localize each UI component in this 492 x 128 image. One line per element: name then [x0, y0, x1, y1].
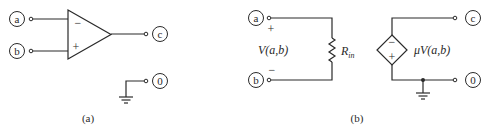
resistor-label: Rin [340, 44, 355, 60]
terminal-0: 0 [153, 74, 168, 89]
input-plus-sign: + [268, 22, 275, 36]
terminal-b: b [249, 73, 264, 88]
terminal-a: a [10, 12, 25, 27]
svg-text:b: b [14, 45, 20, 57]
node-b [29, 49, 33, 53]
node-c [453, 16, 457, 20]
input-minus-sign: − [269, 63, 276, 77]
source-plus-sign: + [389, 50, 396, 64]
wire-c [392, 18, 453, 35]
input-voltage-label: V(a,b) [258, 43, 288, 57]
node-a [29, 17, 33, 21]
terminal-b: b [10, 44, 25, 59]
terminal-c: c [466, 11, 481, 26]
svg-text:a: a [254, 12, 259, 24]
terminal-c: c [153, 27, 168, 42]
opamp-plus-sign: + [73, 40, 80, 54]
svg-text:c: c [471, 12, 476, 24]
ground-icon [119, 97, 133, 103]
node-0 [453, 78, 457, 82]
node-c [144, 32, 148, 36]
wire-b [271, 62, 332, 80]
svg-text:0: 0 [470, 74, 476, 86]
node-0 [144, 79, 148, 83]
wire-ground [126, 81, 144, 97]
node-a [267, 16, 271, 20]
wire-a [271, 18, 332, 38]
circuit-diagram: a b − + c 0 ( [0, 0, 492, 128]
terminal-a: a [249, 11, 264, 26]
source-minus-sign: − [389, 35, 396, 49]
svg-text:0: 0 [157, 75, 163, 87]
svg-text:c: c [158, 28, 163, 40]
node-b [267, 78, 271, 82]
caption-a: (a) [82, 112, 95, 125]
wire-0 [392, 65, 453, 80]
svg-text:a: a [15, 13, 20, 25]
svg-text:b: b [253, 74, 259, 86]
panel-a: a b − + c 0 ( [10, 10, 168, 125]
source-label: μV(a,b) [413, 43, 450, 57]
terminal-0: 0 [466, 73, 481, 88]
ground-icon [416, 93, 430, 99]
panel-b: a Rin b + − V(a,b) − + μV(a,b) c [249, 11, 481, 126]
resistor-rin [329, 38, 335, 62]
caption-b: (b) [351, 112, 364, 125]
opamp-minus-sign: − [75, 16, 82, 30]
